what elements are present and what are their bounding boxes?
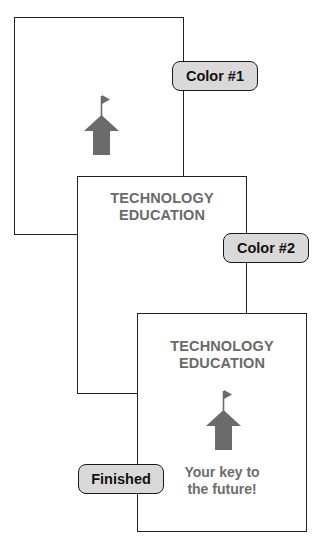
house-flag-icon: [204, 389, 244, 451]
stage-label-color-2: Color #2: [223, 233, 309, 263]
card-title-line-1: TECHNOLOGY: [78, 190, 246, 207]
stage-label-color-1: Color #1: [172, 61, 258, 91]
card-title-line-2: EDUCATION: [78, 207, 246, 224]
stage-card-finished: TECHNOLOGY EDUCATION Your key to the fut…: [137, 313, 307, 532]
card-title-line-1: TECHNOLOGY: [138, 338, 306, 355]
stage-label-finished: Finished: [78, 464, 164, 494]
card-title-line-2: EDUCATION: [138, 355, 306, 372]
house-flag-icon: [82, 94, 122, 156]
